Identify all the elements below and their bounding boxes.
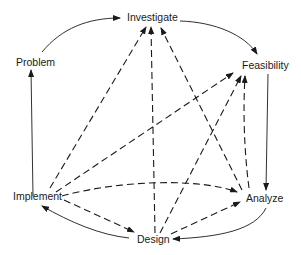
edge-implement-analyze [62,183,237,196]
node-problem: Problem [16,56,55,68]
edge-investigate-feasibility [180,21,257,54]
node-analyze: Analyze [246,192,283,204]
edge-design-analyze [171,202,240,234]
edge-design-implement [42,206,129,238]
edge-problem-investigate [42,18,120,52]
node-design: Design [137,233,170,245]
edge-implement-problem [31,70,33,196]
node-implement: Implement [13,190,62,202]
edge-analyze-design [173,208,266,239]
edge-analyze-investigate [161,28,242,190]
node-feasibility: Feasibility [242,59,289,71]
edge-implement-feasibility [56,73,233,192]
node-investigate: Investigate [127,11,178,23]
diagram-canvas [0,0,301,255]
edge-design-feasibility [160,76,241,233]
edge-feasibility-analyze [266,74,268,190]
edge-analyze-feasibility [244,76,249,188]
edge-design-investigate [151,27,155,233]
edge-implement-design [64,200,134,232]
